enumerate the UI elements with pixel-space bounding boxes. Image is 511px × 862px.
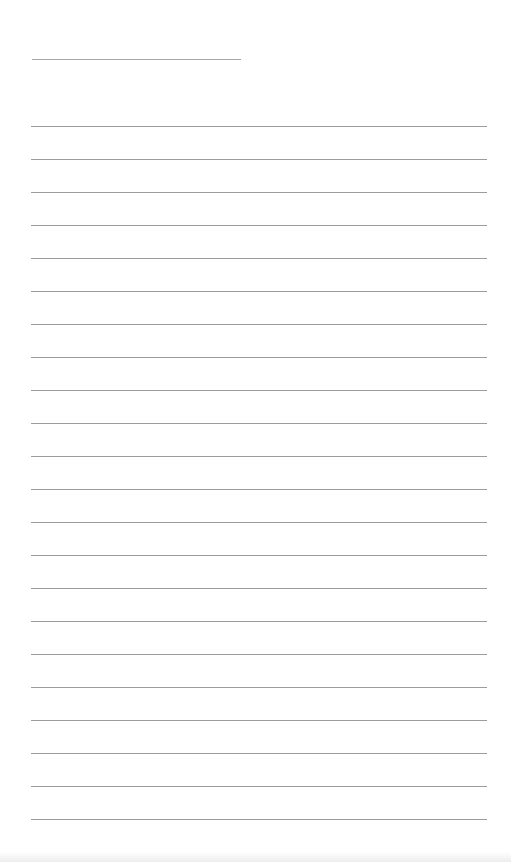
ruled-line <box>31 126 487 127</box>
ruled-line <box>31 357 487 358</box>
ruled-line <box>31 555 487 556</box>
ruled-line <box>31 390 487 391</box>
ruled-line <box>31 720 487 721</box>
ruled-line <box>31 456 487 457</box>
ruled-line <box>31 753 487 754</box>
status-bar <box>0 0 511 8</box>
ruled-line <box>31 654 487 655</box>
ruled-line <box>31 786 487 787</box>
ruled-line <box>31 258 487 259</box>
ruled-line <box>31 687 487 688</box>
ruled-line <box>31 291 487 292</box>
ruled-line <box>31 588 487 589</box>
ruled-line <box>31 423 487 424</box>
ruled-line <box>31 225 487 226</box>
ruled-line <box>31 489 487 490</box>
ruled-line <box>31 819 487 820</box>
ruled-line <box>31 621 487 622</box>
ruled-line <box>31 324 487 325</box>
ruled-line <box>31 159 487 160</box>
ruled-line <box>31 522 487 523</box>
bottom-shadow <box>0 852 511 862</box>
ruled-line <box>31 192 487 193</box>
title-underline <box>32 59 241 60</box>
